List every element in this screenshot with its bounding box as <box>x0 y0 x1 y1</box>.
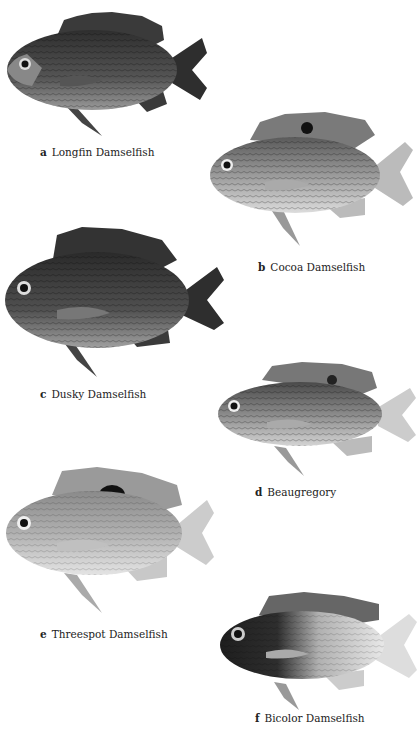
caption-longfin-damselfish: aLongfin Damselfish <box>40 146 154 158</box>
caption-name: Threespot Damselfish <box>52 628 168 640</box>
caption-letter: c <box>40 388 46 400</box>
caption-name: Dusky Damselfish <box>51 388 146 400</box>
caption-letter: e <box>40 628 47 640</box>
fish-illustration-cocoa-damselfish <box>205 110 415 250</box>
caption-name: Longfin Damselfish <box>52 146 155 158</box>
caption-beaugregory: dBeaugregory <box>255 486 336 498</box>
fish-illustration-dusky-damselfish <box>2 225 224 380</box>
fish-illustration-longfin-damselfish <box>2 8 210 138</box>
caption-dusky-damselfish: cDusky Damselfish <box>40 388 146 400</box>
caption-name: Cocoa Damselfish <box>270 261 365 273</box>
caption-threespot-damselfish: eThreespot Damselfish <box>40 628 168 640</box>
caption-letter: f <box>255 712 260 724</box>
fish-illustration-threespot-damselfish <box>2 465 214 615</box>
caption-letter: b <box>258 261 265 273</box>
caption-bicolor-damselfish: fBicolor Damselfish <box>255 712 365 724</box>
caption-name: Bicolor Damselfish <box>265 712 365 724</box>
caption-letter: d <box>255 486 262 498</box>
caption-cocoa-damselfish: bCocoa Damselfish <box>258 261 365 273</box>
caption-letter: a <box>40 146 47 158</box>
caption-name: Beaugregory <box>267 486 336 498</box>
fish-illustration-beaugregory <box>212 360 417 480</box>
fish-illustration-bicolor-damselfish <box>214 590 419 712</box>
